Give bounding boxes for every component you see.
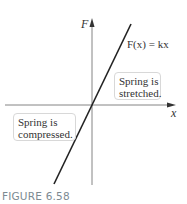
figure-caption: FIGURE 6.58 <box>2 190 70 202</box>
x-axis-label: x <box>171 106 176 121</box>
stretched-annotation: Spring is stretched. <box>114 72 161 100</box>
stretched-line2: stretched. <box>119 87 156 99</box>
stretched-line1: Spring is <box>119 75 156 87</box>
function-line <box>54 24 131 184</box>
f-axis-label: F <box>81 17 88 32</box>
f-axis-arrow-icon <box>90 18 95 27</box>
plot-canvas <box>0 0 187 204</box>
compressed-line1: Spring is <box>18 116 71 128</box>
function-label: F(x) = kx <box>127 38 169 50</box>
compressed-line2: compressed. <box>18 128 71 140</box>
compressed-annotation: Spring is compressed. <box>13 113 76 141</box>
figure: F F(x) = kx x Spring is stretched. Sprin… <box>0 0 187 204</box>
